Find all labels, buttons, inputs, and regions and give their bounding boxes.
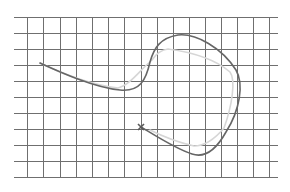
drawing-canvas[interactable] bbox=[0, 0, 290, 192]
